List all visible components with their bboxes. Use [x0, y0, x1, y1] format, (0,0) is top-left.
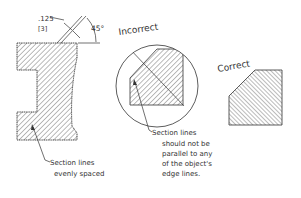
correct-title: Correct	[217, 58, 252, 74]
correct-section	[229, 70, 282, 125]
dimension-metric: [3]	[38, 25, 47, 33]
note-middle-line5: edge lines.	[162, 170, 200, 178]
dimension-value: .125	[38, 15, 54, 23]
note-middle-line1: Section lines	[152, 129, 197, 137]
note-left-line1: Section lines	[50, 159, 95, 167]
note-left-line2: evenly spaced	[54, 170, 104, 178]
section-lines-diagram: .125 [3] 45° Section lines evenly spaced…	[0, 0, 301, 198]
incorrect-section	[128, 47, 184, 106]
note-middle-line4: of the object's	[162, 160, 212, 168]
evenly-spaced-section	[17, 43, 77, 140]
incorrect-title: Incorrect	[118, 21, 159, 37]
note-middle-line2: should not be	[162, 140, 210, 148]
note-middle-line3: parallel to any	[162, 150, 212, 158]
angle-label: 45°	[91, 24, 105, 33]
